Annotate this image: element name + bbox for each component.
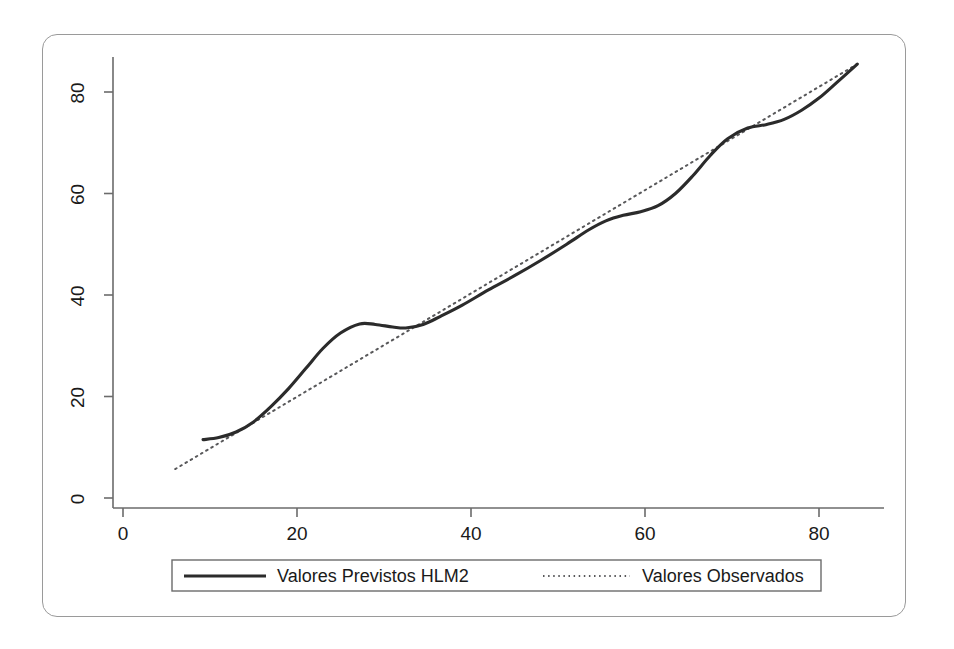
screenshot-root: 020406080 020406080 Valores Previstos HL… [0,0,954,649]
x-tick-label: 20 [286,523,307,544]
legend: Valores Previstos HLM2 Valores Observado… [172,560,821,591]
x-tick-label: 60 [634,523,655,544]
x-axis-ticks: 020406080 [118,508,830,544]
y-tick-label: 0 [67,494,88,505]
y-tick-label: 40 [67,285,88,306]
y-axis-ticks: 020406080 [67,82,113,504]
y-tick-label: 20 [67,387,88,408]
y-tick-label: 80 [67,82,88,103]
legend-label-previstos: Valores Previstos HLM2 [277,566,469,586]
x-tick-label: 80 [808,523,829,544]
x-tick-label: 40 [460,523,481,544]
legend-label-observados: Valores Observados [642,566,804,586]
series-line-valores-previstos-hlm2 [203,64,857,440]
x-tick-label: 0 [118,523,129,544]
y-tick-label: 60 [67,184,88,205]
line-chart: 020406080 020406080 Valores Previstos HL… [0,0,954,649]
